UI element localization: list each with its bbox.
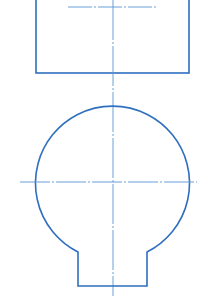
technical-drawing [0, 0, 203, 307]
top-view-rectangle [36, 0, 189, 73]
front-view-outline [36, 106, 190, 286]
